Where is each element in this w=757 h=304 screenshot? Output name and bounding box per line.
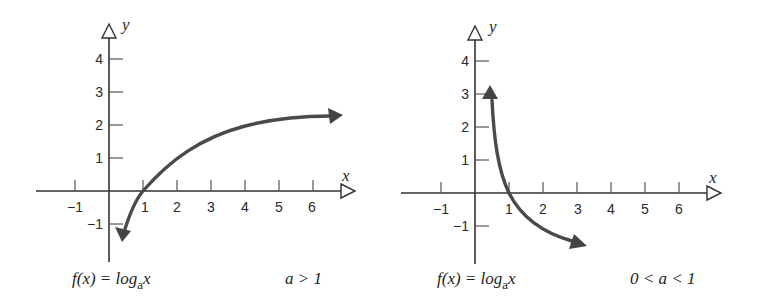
right-x-tick-label: 2 (539, 201, 547, 217)
right-y-tick-label: 1 (461, 152, 469, 168)
right-x-tick-label: 5 (641, 201, 649, 217)
right-y-tick-label: 3 (461, 86, 469, 102)
right-x-ticks (441, 182, 679, 193)
left-curve-end-arrow-icon (328, 108, 343, 124)
right-y-axis-name: y (487, 17, 497, 36)
left-y-tick-label: 1 (95, 150, 103, 166)
left-caption-x: x (142, 269, 151, 288)
left-y-tick-label: 4 (95, 51, 103, 67)
right-y-axis-arrow-icon (468, 26, 482, 40)
left-caption-f: f(x) = log (72, 269, 137, 288)
left-curve-start-arrow-icon (115, 227, 131, 242)
right-x-axis-arrow-icon (707, 186, 721, 200)
right-curve-start-arrow-icon (482, 85, 498, 99)
right-x-tick-label: 1 (505, 201, 513, 217)
left-y-ticks (109, 59, 123, 224)
left-y-axis-arrow-icon (102, 24, 116, 38)
left-y-axis-name: y (120, 15, 130, 34)
left-x-axis-arrow-icon (341, 184, 355, 198)
left-function-caption: f(x) = logax (72, 269, 151, 292)
right-x-tick-label: 4 (607, 201, 615, 217)
right-y-tick-label: −1 (453, 218, 469, 234)
left-y-tick-label: 3 (95, 84, 103, 100)
left-x-tick-label: 2 (173, 199, 181, 215)
left-x-axis-name: x (341, 166, 350, 185)
left-x-tick-label: 4 (241, 199, 249, 215)
left-x-ticks (75, 180, 313, 191)
right-function-caption: f(x) = logax (437, 269, 516, 292)
left-x-tick-label: −1 (67, 199, 83, 215)
left-graph: −1 1 2 3 4 5 6 4 3 2 1 −1 y x f(x) = log… (36, 15, 355, 292)
left-x-tick-label: 6 (308, 199, 316, 215)
right-y-tick-label: 2 (461, 119, 469, 135)
right-curve-end-arrow-icon (569, 234, 587, 249)
right-y-ticks (475, 61, 489, 226)
right-condition-label: 0 < a < 1 (630, 269, 695, 288)
left-x-tick-label: 5 (275, 199, 283, 215)
right-x-tick-label: 6 (675, 201, 683, 217)
right-caption-f: f(x) = log (437, 269, 502, 288)
right-y-tick-label: 4 (461, 53, 469, 69)
left-condition-label: a > 1 (285, 269, 322, 288)
left-y-tick-label: −1 (87, 216, 103, 232)
right-log-curve (492, 100, 572, 241)
left-x-tick-label: 1 (141, 199, 149, 215)
right-caption-x: x (507, 269, 516, 288)
right-x-tick-label: −1 (433, 201, 449, 217)
left-y-tick-label: 2 (95, 117, 103, 133)
left-log-curve (125, 116, 330, 229)
left-x-tick-label: 3 (207, 199, 215, 215)
figure-canvas: −1 1 2 3 4 5 6 4 3 2 1 −1 y x f(x) = log… (0, 0, 757, 304)
right-x-axis-name: x (708, 168, 717, 187)
right-graph: −1 1 2 3 4 5 6 4 3 2 1 −1 y x f(x) = log… (401, 17, 721, 292)
right-x-tick-label: 3 (574, 201, 582, 217)
